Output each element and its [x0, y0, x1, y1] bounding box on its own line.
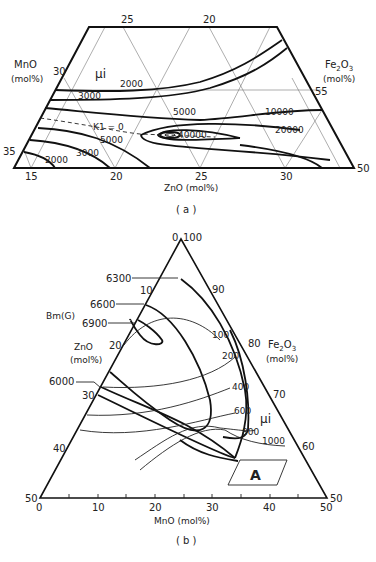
bm-label-6000: 6000: [49, 376, 74, 387]
panel-b-mu-label: μi: [260, 412, 271, 426]
bm-contour-6300: [181, 279, 246, 458]
panel-b-right-tick-90: 90: [212, 284, 225, 295]
panel-b-left-tick-20: 20: [109, 340, 122, 351]
bm-contour-6000: [101, 387, 235, 458]
contour-label-5000-upper: 5000: [173, 107, 196, 117]
panel-b-apex-right-tick: 100: [183, 232, 202, 243]
panel-b-left-tick-10: 10: [140, 285, 153, 296]
panel-b-right-tick-60: 60: [302, 441, 315, 452]
panel-b-bm-label: Bm(G): [46, 311, 75, 321]
panel-b-zno-label: ZnO: [74, 342, 93, 352]
contour-label-10000: 10000: [265, 107, 294, 117]
panel-a-bottom-tick-20: 20: [110, 171, 123, 182]
panel-a-fe2o3-unit: (mol%): [323, 74, 355, 84]
panel-b-bottom-tick-40: 40: [263, 502, 276, 513]
panel-a-mno-unit: (mol%): [11, 74, 43, 84]
contour-label-3000-lower: 3000: [76, 148, 99, 158]
panel-b-left-tick-40: 40: [53, 443, 66, 454]
panel-a-mu-label: μi: [95, 67, 106, 81]
contour-label-3000-upper: 3000: [78, 91, 101, 101]
panel-b-fe2o3-unit: (mol%): [266, 354, 298, 364]
panel-b-left-tick-30: 30: [82, 390, 95, 401]
bm-label-6600: 6600: [90, 299, 115, 310]
panel-a-zno-axis-label: ZnO (mol%): [164, 183, 218, 193]
panel-a-right-tick-55: 55: [315, 86, 328, 97]
panel-b-caption: ( b ): [176, 535, 197, 546]
panel-b-bottom-tick-0: 0: [36, 502, 42, 513]
mu-label-400: 400: [232, 382, 249, 392]
panel-b-right-tick-80: 80: [248, 338, 261, 349]
panel-b-bottom-tick-20: 20: [149, 502, 162, 513]
panel-b-diagram: [40, 239, 327, 498]
panel-b-fe2o3-label: Fe2O3: [268, 339, 296, 353]
panel-b-zno-unit: (mol%): [70, 355, 102, 365]
panel-a-caption: ( a ): [176, 204, 196, 215]
mu-label-100: 100: [212, 330, 229, 340]
panel-a-left-tick-35: 35: [3, 146, 16, 157]
panel-b-apex-left-tick: 0: [172, 232, 178, 243]
contour-label-5000-lower: 5000: [100, 135, 123, 145]
panel-a-right-tick-50: 50: [357, 163, 370, 174]
contour-label-2000-lower: 2000: [45, 155, 68, 165]
bm-label-6300: 6300: [106, 273, 131, 284]
panel-a-mno-label: MnO: [14, 59, 37, 70]
panel-b-frame: [40, 239, 327, 498]
bm-contour-6600: [110, 305, 211, 430]
mu-label-800: 800: [242, 427, 259, 437]
panel-b-right-tick-70: 70: [273, 389, 286, 400]
contour-label-40000: 40000: [178, 130, 207, 140]
panel-b-bottom-tick-50: 50: [320, 502, 333, 513]
panel-a-k1-label: K1 = 0: [93, 122, 124, 132]
mu-label-1000: 1000: [262, 436, 285, 446]
panel-a-bottom-tick-30: 30: [280, 171, 293, 182]
panel-a-bottom-tick-25: 25: [195, 171, 208, 182]
region-a-label: A: [250, 467, 261, 483]
bm-label-6900: 6900: [82, 318, 107, 329]
panel-b-bottom-tick-10: 10: [92, 502, 105, 513]
mu-label-600: 600: [234, 406, 251, 416]
figure-canvas: MnO (mol%) 30 35 25 20 Fe2O3 (mol%) 55 5…: [0, 0, 376, 562]
panel-a-top-tick-25: 25: [121, 14, 134, 25]
panel-b-bottom-tick-30: 30: [206, 502, 219, 513]
panel-a-diagram: [14, 27, 354, 168]
panel-b-mno-axis-label: MnO (mol%): [154, 516, 210, 526]
panel-a-top-tick-20: 20: [203, 14, 216, 25]
panel-a-fe2o3-label: Fe2O3: [325, 59, 353, 73]
panel-a-left-tick-30: 30: [53, 66, 66, 77]
contour-label-2000-upper: 2000: [120, 79, 143, 89]
panel-a-bottom-tick-15: 15: [25, 171, 38, 182]
contour-label-20000: 20000: [275, 125, 304, 135]
mu-label-200: 200: [222, 351, 239, 361]
